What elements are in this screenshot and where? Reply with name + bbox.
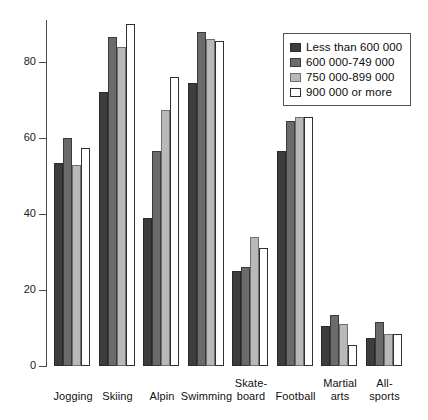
bar xyxy=(339,324,348,366)
bar xyxy=(63,138,72,366)
chart-legend: Less than 600 000600 000-749 000750 000-… xyxy=(283,33,411,106)
x-axis-category-label: Swimming xyxy=(181,390,233,403)
legend-swatch-icon xyxy=(290,58,301,67)
x-axis-category-label: Martial arts xyxy=(323,377,357,402)
bar xyxy=(393,334,402,366)
bar xyxy=(143,218,152,366)
bar xyxy=(197,32,206,366)
bar-group xyxy=(366,62,406,366)
x-axis-category-label: Alpin xyxy=(150,390,175,403)
x-axis-category-label: Football xyxy=(276,390,316,403)
bar-group xyxy=(232,62,272,366)
x-axis-category-label: Jogging xyxy=(53,390,92,403)
bar xyxy=(161,110,170,367)
bar-group xyxy=(188,62,228,366)
bar xyxy=(259,248,268,366)
legend-item-label: 750 000-899 000 xyxy=(306,71,394,83)
bar xyxy=(117,47,126,366)
legend-item: 900 000 or more xyxy=(290,85,402,99)
bar xyxy=(170,77,179,366)
bar-group-bars xyxy=(143,62,179,366)
y-axis-tick xyxy=(39,62,47,63)
legend-item-label: 900 000 or more xyxy=(306,86,392,98)
bar xyxy=(72,165,81,366)
legend-swatch-icon xyxy=(290,73,301,82)
bar-group-bars xyxy=(99,62,135,366)
bar xyxy=(99,92,108,366)
bar-group xyxy=(54,62,94,366)
bar-group xyxy=(143,62,183,366)
legend-item-label: 600 000-749 000 xyxy=(306,56,394,68)
bar-group xyxy=(277,62,317,366)
bar-group-bars xyxy=(277,62,313,366)
legend-swatch-icon xyxy=(290,88,301,97)
bar xyxy=(330,315,339,366)
y-axis-tick xyxy=(39,138,47,139)
bar xyxy=(232,271,241,366)
bar-chart: 020406080 JoggingSkiingAlpinSwimmingSkat… xyxy=(0,0,428,420)
bar xyxy=(286,121,295,366)
bar xyxy=(366,338,375,367)
y-axis-tick xyxy=(39,214,47,215)
legend-item: 750 000-899 000 xyxy=(290,70,402,84)
y-axis-tick xyxy=(39,290,47,291)
bar xyxy=(277,151,286,366)
bar xyxy=(126,24,135,366)
bar-group-bars xyxy=(366,62,402,366)
bar-group xyxy=(99,62,139,366)
bar xyxy=(54,163,63,366)
bar xyxy=(375,322,384,366)
bar-group-bars xyxy=(232,62,268,366)
x-axis-category-label: Skiing xyxy=(102,390,133,403)
bar xyxy=(108,37,117,366)
y-axis-tick xyxy=(39,366,47,367)
x-axis-category-label: Skate- board xyxy=(235,377,267,402)
bar xyxy=(384,334,393,366)
bar xyxy=(206,39,215,366)
legend-item: 600 000-749 000 xyxy=(290,55,402,69)
bar-group-bars xyxy=(54,62,90,366)
y-axis-tick-label: 0 xyxy=(0,359,36,371)
bar xyxy=(215,41,224,366)
bar xyxy=(295,117,304,366)
legend-item-label: Less than 600 000 xyxy=(306,41,402,53)
bar xyxy=(152,151,161,366)
bar-group-bars xyxy=(188,62,224,366)
bar xyxy=(348,345,357,366)
bar xyxy=(241,267,250,366)
y-axis-tick-label: 80 xyxy=(0,55,36,67)
bar xyxy=(321,326,330,366)
y-axis-tick-label: 60 xyxy=(0,131,36,143)
bar-group-bars xyxy=(321,62,357,366)
legend-swatch-icon xyxy=(290,43,301,52)
bar-group xyxy=(321,62,361,366)
legend-item: Less than 600 000 xyxy=(290,40,402,54)
y-axis-tick-label: 20 xyxy=(0,283,36,295)
bar xyxy=(304,117,313,366)
y-axis-tick-label: 40 xyxy=(0,207,36,219)
bar xyxy=(81,148,90,367)
bar xyxy=(250,237,259,366)
bar xyxy=(188,83,197,366)
x-axis-category-label: All-sports xyxy=(369,377,400,402)
